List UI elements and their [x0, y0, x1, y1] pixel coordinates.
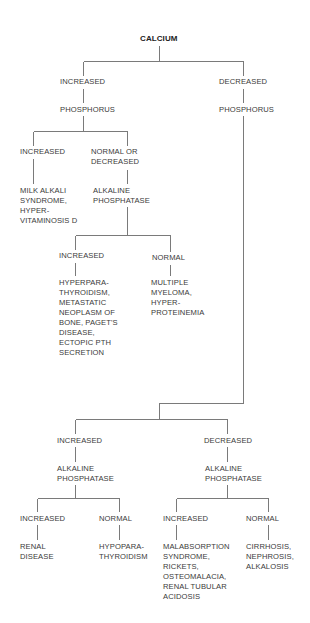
result-hypoparathyroidism: HYPOPARA- THYROIDISM: [99, 542, 148, 562]
phosphorus-decreased-right: DECREASED: [204, 436, 252, 446]
alkaline-phosphatase-test-1: ALKALINE PHOSPHATASE: [93, 186, 150, 206]
result-multiple-myeloma: MULTIPLE MYELOMA, HYPER- PROTEINEMIA: [151, 278, 204, 318]
phosphorus-test-left: PHOSPHORUS: [60, 105, 115, 115]
alp-normal-3: NORMAL: [246, 514, 279, 524]
phosphorus-increased: INCREASED: [20, 147, 65, 157]
alkaline-phosphatase-test-3: ALKALINE PHOSPHATASE: [205, 464, 262, 484]
result-hyperparathyroidism: HYPERPARA- THYROIDISM, METASTATIC NEOPLA…: [59, 278, 118, 358]
result-milk-alkali: MILK ALKALI SYNDROME, HYPER- VITAMINOSIS…: [20, 186, 77, 226]
result-cirrhosis: CIRRHOSIS, NEPHROSIS, ALKALOSIS: [246, 542, 294, 572]
alp-normal-2: NORMAL: [99, 514, 132, 524]
alp-increased-1: INCREASED: [59, 251, 104, 261]
calcium-decreased: DECREASED: [219, 77, 267, 87]
alp-increased-3: INCREASED: [163, 514, 208, 524]
calcium-increased: INCREASED: [60, 77, 105, 87]
result-malabsorption: MALABSORPTION SYNDROME, RICKETS, OSTEOMA…: [163, 542, 230, 602]
root-calcium: CALCIUM: [140, 34, 178, 44]
alp-normal-1: NORMAL: [152, 253, 185, 263]
phosphorus-increased-right: INCREASED: [57, 436, 102, 446]
alp-increased-2: INCREASED: [20, 514, 65, 524]
phosphorus-normal-or-decreased: NORMAL OR DECREASED: [91, 147, 139, 167]
calcium-decision-tree: CALCIUM INCREASED PHOSPHORUS INCREASED M…: [0, 0, 310, 623]
phosphorus-test-right: PHOSPHORUS: [219, 105, 274, 115]
result-renal-disease: RENAL DISEASE: [20, 542, 54, 562]
alkaline-phosphatase-test-2: ALKALINE PHOSPHATASE: [57, 464, 114, 484]
